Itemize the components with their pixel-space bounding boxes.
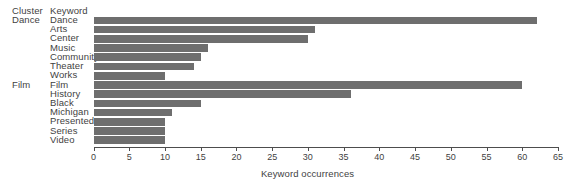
x-axis-tick-label: 35 — [339, 152, 349, 162]
x-axis-title: Keyword occurrences — [0, 168, 573, 179]
x-axis-tick-mark — [344, 148, 345, 151]
x-axis-tick-mark — [201, 148, 202, 151]
table-row: FilmFilm — [0, 81, 573, 90]
bar — [94, 127, 165, 135]
bar — [94, 100, 201, 108]
bar — [94, 17, 537, 25]
bar — [94, 53, 201, 61]
bar — [94, 118, 165, 126]
table-row: Video — [0, 136, 573, 145]
x-axis-tick-label: 30 — [303, 152, 313, 162]
x-axis-tick-mark — [308, 148, 309, 151]
x-axis-tick-label: 55 — [482, 152, 492, 162]
table-row: DanceDance — [0, 16, 573, 25]
x-axis-title-text: Keyword occurrences — [261, 168, 354, 179]
table-row: Theater — [0, 62, 573, 71]
x-axis-tick-label: 50 — [446, 152, 456, 162]
table-row: Works — [0, 71, 573, 80]
bar — [94, 44, 208, 52]
table-row: Series — [0, 127, 573, 136]
bar — [94, 109, 173, 117]
x-axis-tick-mark — [522, 148, 523, 151]
x-axis-tick-mark — [236, 148, 237, 151]
x-axis-tick-label: 5 — [127, 152, 132, 162]
bar — [94, 26, 316, 34]
bar — [94, 63, 194, 71]
bar — [94, 136, 165, 144]
x-axis-tick-mark — [487, 148, 488, 151]
table-row: Presented — [0, 117, 573, 126]
x-axis-tick-mark — [272, 148, 273, 151]
x-axis-tick-mark — [379, 148, 380, 151]
x-axis-tick-mark — [129, 148, 130, 151]
table-row: History — [0, 90, 573, 99]
x-axis-tick-mark — [415, 148, 416, 151]
x-axis-tick-label: 15 — [196, 152, 206, 162]
x-axis-tick-label: 25 — [267, 152, 277, 162]
x-axis-tick-label: 0 — [91, 152, 96, 162]
x-axis-tick-mark — [94, 148, 95, 151]
chart-rows: DanceDanceArtsCenterMusicCommunityTheate… — [0, 16, 573, 145]
bar — [94, 35, 308, 43]
x-axis-tick-mark — [165, 148, 166, 151]
cluster-label: Dance — [12, 15, 40, 25]
x-axis-tick-label: 45 — [410, 152, 420, 162]
x-axis-tick-label: 40 — [374, 152, 384, 162]
table-row: Center — [0, 34, 573, 43]
bar — [94, 81, 523, 89]
keyword-label: Video — [50, 135, 75, 145]
x-axis-tick-label: 10 — [160, 152, 170, 162]
bar — [94, 72, 165, 80]
x-axis-tick-mark — [558, 148, 559, 151]
x-axis-tick-label: 20 — [231, 152, 241, 162]
keyword-occurrences-bar-chart: Cluster Keyword DanceDanceArtsCenterMusi… — [0, 0, 573, 186]
x-axis-line — [94, 147, 560, 148]
table-row: Arts — [0, 25, 573, 34]
x-axis-tick-mark — [451, 148, 452, 151]
bar — [94, 90, 351, 98]
x-axis-tick-label: 65 — [553, 152, 563, 162]
table-row: Community — [0, 53, 573, 62]
x-axis-tick-label: 60 — [517, 152, 527, 162]
cluster-label: Film — [12, 80, 30, 90]
